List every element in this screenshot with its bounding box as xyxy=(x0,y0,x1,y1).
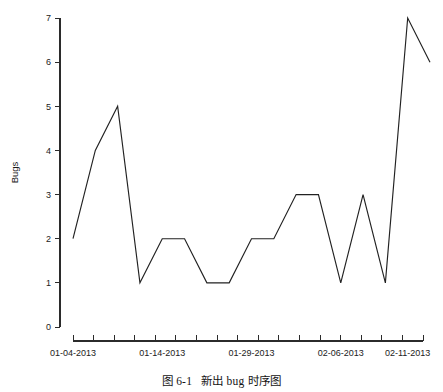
x-tick-label: 02-06-2013 xyxy=(318,348,364,358)
y-tick-label: 1 xyxy=(46,278,51,288)
y-axis-label: Bugs xyxy=(9,161,20,183)
y-axis: 01234567 xyxy=(46,13,60,332)
y-tick-label: 6 xyxy=(46,57,51,67)
data-series-group xyxy=(73,18,430,283)
figure-caption: 图 6-1新出 bug 时序图 xyxy=(0,372,443,388)
y-tick-label: 5 xyxy=(46,102,51,112)
x-tick-label: 01-14-2013 xyxy=(139,348,185,358)
x-tick-label: 01-04-2013 xyxy=(50,348,96,358)
y-tick-label: 0 xyxy=(46,322,51,332)
y-tick-label: 3 xyxy=(46,190,51,200)
y-tick-label: 7 xyxy=(46,13,51,23)
y-tick-label: 2 xyxy=(46,234,51,244)
line-chart-plot: 01234567 01-04-201301-14-201301-29-20130… xyxy=(0,0,443,370)
caption-number: 图 6-1 xyxy=(162,375,192,387)
x-tick-label: 02-11-2013 xyxy=(385,348,430,358)
x-tick-label: 01-29-2013 xyxy=(228,348,274,358)
x-axis: 01-04-201301-14-201301-29-201302-06-2013… xyxy=(50,335,430,358)
figure-container: 01234567 01-04-201301-14-201301-29-20130… xyxy=(0,0,443,392)
caption-text: 新出 bug 时序图 xyxy=(201,375,281,387)
data-series-line xyxy=(73,18,430,283)
y-tick-label: 4 xyxy=(46,146,51,156)
y-axis-title: Bugs xyxy=(9,161,20,183)
